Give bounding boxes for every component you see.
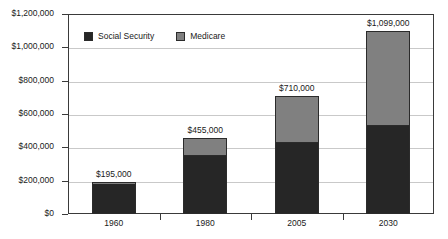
y-axis-tick-label: $1,000,000 (11, 42, 54, 51)
x-axis-tick-label: 1980 (160, 218, 252, 238)
chart-container: $0$200,000$400,000$600,000$800,000$1,000… (0, 0, 448, 239)
y-axis-tick-mark (62, 181, 68, 182)
y-axis-tick-mark (62, 14, 68, 15)
bar-stack[interactable] (92, 182, 136, 215)
bar-segment-medicare[interactable] (367, 32, 409, 126)
bar-segment-social-security[interactable] (93, 184, 135, 214)
bar-segment-medicare[interactable] (184, 139, 226, 156)
bar-value-label: $710,000 (279, 83, 314, 93)
bar-value-label: $195,000 (96, 169, 131, 179)
chart-legend: Social SecurityMedicare (84, 31, 225, 41)
bars-layer: $195,000$455,000$710,000$1,099,000 (68, 14, 434, 214)
legend-swatch-icon (176, 32, 185, 41)
y-axis-tick-label: $200,000 (19, 176, 54, 185)
bar-segment-social-security[interactable] (276, 143, 318, 213)
bar-group[interactable]: $710,000 (275, 14, 319, 214)
y-axis-tick-label: $0 (45, 209, 54, 218)
y-axis-tick-label: $800,000 (19, 76, 54, 85)
legend-entry[interactable]: Medicare (176, 31, 225, 41)
bar-value-label: $455,000 (188, 125, 223, 135)
y-axis-tick-mark (62, 147, 68, 148)
y-axis-tick-label: $1,200,000 (11, 9, 54, 18)
bar-segment-medicare[interactable] (276, 97, 318, 144)
y-axis-tick-mark (62, 114, 68, 115)
bar-stack[interactable] (275, 96, 319, 214)
x-axis-tick-label: 2030 (343, 218, 435, 238)
x-axis: 1960198020052030 (68, 218, 434, 238)
bar-group[interactable]: $195,000 (92, 14, 136, 214)
bar-value-label: $1,099,000 (367, 18, 410, 28)
bar-group[interactable]: $455,000 (183, 14, 227, 214)
x-axis-tick-label: 1960 (68, 218, 160, 238)
bar-segment-social-security[interactable] (367, 126, 409, 213)
y-axis-tick-label: $400,000 (19, 142, 54, 151)
y-axis-tick-mark (62, 81, 68, 82)
x-axis-tick-mark (160, 214, 161, 220)
y-axis-tick-mark (62, 47, 68, 48)
bar-stack[interactable] (366, 31, 410, 214)
legend-label: Social Security (98, 31, 154, 41)
x-axis-tick-label: 2005 (251, 218, 343, 238)
bar-segment-social-security[interactable] (184, 156, 226, 213)
y-axis-tick-label: $600,000 (19, 109, 54, 118)
y-axis: $0$200,000$400,000$600,000$800,000$1,000… (0, 0, 62, 239)
legend-swatch-icon (84, 32, 93, 41)
legend-entry[interactable]: Social Security (84, 31, 154, 41)
x-axis-tick-mark (343, 214, 344, 220)
bar-stack[interactable] (183, 138, 227, 214)
y-axis-tick-mark (62, 214, 68, 215)
x-axis-tick-mark (251, 214, 252, 220)
bar-group[interactable]: $1,099,000 (366, 14, 410, 214)
legend-label: Medicare (190, 31, 225, 41)
